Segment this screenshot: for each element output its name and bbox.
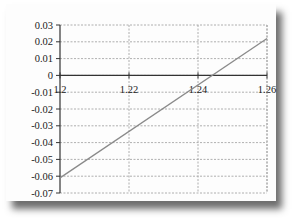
y-tick-label: 0.02: [35, 36, 53, 47]
y-tick-label: -0.01: [31, 87, 53, 98]
x-tick-label: 1.22: [120, 84, 138, 95]
data-line: [60, 38, 267, 177]
y-tick-label: -0.04: [31, 137, 54, 148]
y-tick-label: -0.07: [31, 188, 53, 199]
y-tick-label: 0.01: [35, 53, 53, 64]
y-tick-label: 0: [48, 70, 53, 81]
y-tick-label: -0.03: [31, 120, 53, 131]
y-tick-label: -0.02: [31, 104, 53, 115]
y-tick-label: 0.03: [35, 20, 53, 31]
y-tick-label: -0.05: [31, 154, 53, 165]
line-chart: 0.030.020.010-0.01-0.02-0.03-0.04-0.05-0…: [0, 0, 299, 218]
y-tick-label: -0.06: [31, 171, 53, 182]
